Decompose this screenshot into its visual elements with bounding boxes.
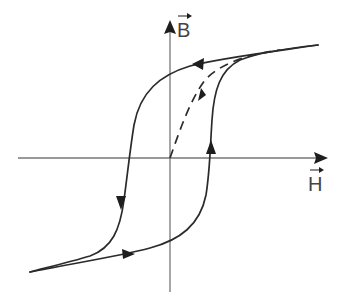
b-axis-label: B [177,13,192,41]
left-branch-down-arrow-icon [116,196,126,210]
hysteresis-diagram: B H [0,0,346,302]
svg-text:B: B [177,19,190,41]
right-branch-up-arrow-icon [206,140,216,154]
initial-magnetization-curve [170,50,280,158]
b-axis-arrowhead-icon [164,20,176,34]
h-axis-arrowhead-icon [314,152,328,164]
lower-branch-right-arrow-icon [122,249,135,259]
dashed-curve-arrow-icon [198,88,206,101]
h-axis-label: H [308,167,324,195]
svg-text:H: H [308,173,322,195]
upper-branch-left-arrow-icon [192,58,204,70]
